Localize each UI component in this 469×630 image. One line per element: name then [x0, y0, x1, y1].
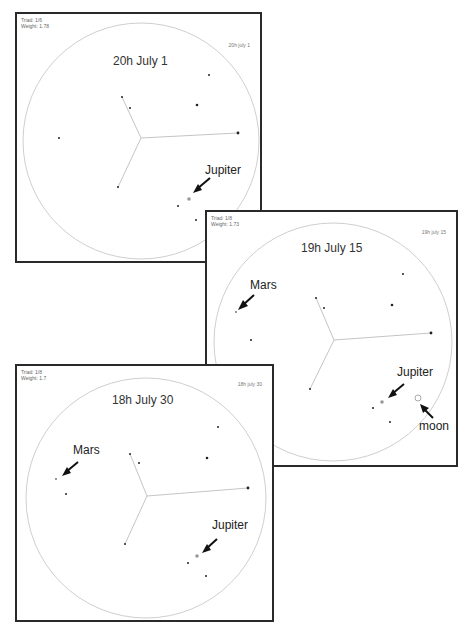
planet-marker-icon-jupiter	[187, 197, 191, 201]
planet-marker-icon-jupiter	[380, 400, 384, 404]
triad-weight-info: Triad: 1/8 Weight: 1.73	[211, 215, 239, 227]
annotation-jupiter: Jupiter	[397, 365, 433, 379]
weight-label: Weight: 1.7	[21, 375, 46, 381]
panel-title: 18h July 30	[112, 393, 173, 407]
arrow-pointer-icon	[202, 539, 217, 553]
weight-label: Weight: 1.78	[21, 23, 49, 29]
corner-date-label: 18h july 30	[238, 381, 262, 387]
annotation-mars: Mars	[73, 443, 100, 457]
moon-marker-icon	[415, 395, 421, 401]
annotation-jupiter: Jupiter	[212, 518, 248, 532]
annotation-jupiter: Jupiter	[205, 163, 241, 177]
weight-label: Weight: 1.73	[211, 221, 239, 227]
planet-marker-icon-jupiter	[195, 554, 199, 558]
arrow-pointer-icon	[193, 178, 210, 193]
planet-marker-icon-mars	[55, 478, 57, 480]
panel-title: 19h July 15	[301, 241, 362, 255]
sky-chart-panel-july-30: Triad: 1/8 Weight: 1.7 18h july 30 18h J…	[15, 364, 274, 622]
panel-title: 20h July 1	[113, 54, 168, 68]
stars	[58, 74, 239, 221]
triad-weight-info: Triad: 1/6 Weight: 1.78	[21, 17, 49, 29]
arrow-pointer-icon	[388, 384, 404, 398]
triad-weight-info: Triad: 1/8 Weight: 1.7	[21, 369, 46, 381]
annotation-mars: Mars	[250, 278, 277, 292]
arrow-pointer-icon	[62, 462, 78, 476]
corner-date-label: 19h july 15	[422, 229, 446, 235]
corner-date-label: 20h july 1	[229, 42, 250, 48]
arrow-pointer-icon	[238, 295, 254, 310]
planet-marker-icon-mars	[235, 311, 237, 313]
stars	[250, 273, 432, 423]
annotation-moon: moon	[419, 419, 449, 433]
